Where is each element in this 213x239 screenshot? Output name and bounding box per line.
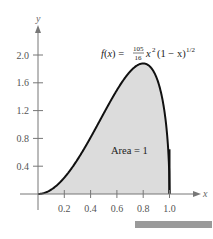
x-tick-label: 1.0 [163,203,176,214]
svg-text:2: 2 [152,46,156,54]
x-tick-label: 0.6 [111,203,124,214]
x-tick-label: 0.2 [58,203,71,214]
shaded-area [38,63,170,194]
x-axis-label: x [202,188,208,199]
y-axis-label: y [35,13,41,24]
function-formula: f(x) = 105 16 x 2 (1 − x) 1/2 [101,45,195,62]
y-tick-label: 1.2 [17,105,30,116]
svg-text:1/2: 1/2 [186,46,195,54]
svg-text:x: x [145,48,151,59]
y-tick-label: 0.4 [17,161,30,172]
x-tick-label: 0.8 [137,203,150,214]
x-axis-arrow-icon [193,191,201,197]
x-tick-label: 0.4 [84,203,97,214]
y-ticks: 0.40.81.21.62.0 [17,50,44,172]
area-annotation: Area = 1 [111,145,148,156]
gray-bar [135,221,212,228]
y-axis-arrow-icon [35,25,41,33]
y-tick-label: 2.0 [17,50,30,61]
svg-text:105: 105 [133,45,144,53]
svg-text:16: 16 [135,54,143,62]
y-tick-label: 1.6 [17,77,30,88]
chart: x y 0.20.40.60.81.0 0.40.81.21.62.0 f(x)… [0,0,213,239]
svg-text:(1 − x): (1 − x) [157,48,186,60]
y-tick-label: 0.8 [17,133,30,144]
svg-text:f(x) =: f(x) = [101,48,124,60]
